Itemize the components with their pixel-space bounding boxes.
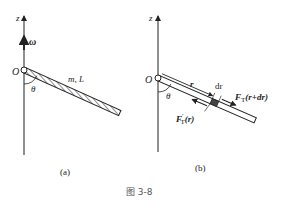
force-left-label: F′T(r) [176,113,194,126]
panel-b [153,16,259,152]
omega-label: ω [29,37,36,47]
origin-label-b: O [145,75,152,85]
z-axis-label-b: z [149,14,153,23]
figure-drawing [0,0,284,210]
pivot-a [21,67,27,73]
z-axis-label-a: z [16,14,20,23]
element-label: dr [215,82,223,91]
origin-label-a: O [12,67,19,77]
rod-mass-length-label: m, L [68,75,84,84]
mass-element [210,99,219,107]
panel-b-label: (b) [195,164,206,173]
theta-label-b: θ [166,92,170,101]
figure-caption: 图 3-8 [126,188,153,197]
theta-label-a: θ [31,85,35,94]
panel-a-label: (a) [60,168,70,177]
pivot-b [155,75,161,81]
force-right-label: FT(r+dr) [235,93,268,104]
position-label: r [190,80,194,89]
